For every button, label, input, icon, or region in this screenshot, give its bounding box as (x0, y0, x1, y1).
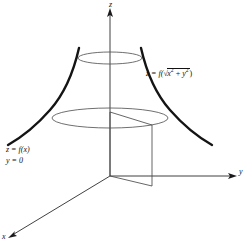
surface-of-revolution-figure: z y x z = f(√x2 + y2) z = f(x) y = 0 (0, 0, 250, 247)
base-radius-line (110, 176, 152, 186)
radicand-y-exponent: 2 (186, 67, 189, 73)
profile-curve-left (8, 48, 79, 145)
x-axis-arrowhead (8, 231, 17, 238)
revolved-equation-lhs: z = f( (146, 69, 163, 78)
profile-equation-line-2: y = 0 (6, 156, 30, 167)
y-axis-label: y (239, 168, 243, 176)
profile-curve-equation-label: z = f(x) y = 0 (6, 145, 30, 167)
profile-equation-line-1: z = f(x) (6, 145, 30, 156)
radicand-plus-sign: + (174, 69, 183, 78)
profile-equation-z-of-x: z = f(x) (6, 145, 30, 154)
figure-canvas (0, 0, 250, 247)
x-axis-line (14, 176, 110, 234)
revolved-surface-equation-label: z = f(√x2 + y2) (146, 68, 192, 80)
radicand-group: x2 + y2 (167, 68, 189, 80)
radius-guide-group (110, 112, 152, 186)
revolved-equation-rhs: ) (190, 69, 193, 78)
z-axis-label: z (109, 1, 112, 9)
profile-equation-y-equals-zero: y = 0 (6, 156, 23, 165)
x-axis-label: x (2, 233, 6, 241)
axes-group (8, 8, 237, 238)
radius-guide-line (110, 112, 152, 125)
